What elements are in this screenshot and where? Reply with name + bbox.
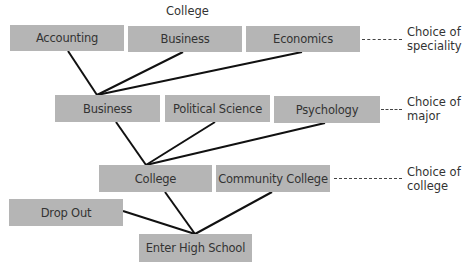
node-accounting: Accounting [10,25,124,51]
college-label-line1: Choice of [407,165,461,179]
edge-college-political-science [146,122,215,165]
speciality-label-line1: Choice of [407,25,462,39]
edge-business-accounting [68,51,97,95]
edge-college-psychology [146,123,325,165]
edge-college-business [116,122,146,165]
speciality-level-label: Choice of speciality [407,25,462,53]
node-business-speciality: Business [128,26,242,52]
edge-business-economics [97,52,302,95]
edge-highschool-drop-out [123,211,195,234]
diagram-title: College [166,4,209,18]
node-political-science: Political Science [165,95,270,122]
node-enter-high-school: Enter High School [139,234,252,262]
edge-highschool-community-college [195,192,272,234]
college-level-label: Choice of college [407,165,461,193]
node-community-college: Community College [216,165,330,192]
edge-business-business [97,52,183,95]
speciality-leader-line [362,39,402,40]
major-label-line1: Choice of [407,95,461,109]
major-leader-line [381,109,402,110]
college-label-line2: college [407,179,461,193]
major-label-line2: major [407,109,461,123]
node-college: College [99,165,212,192]
major-level-label: Choice of major [407,95,461,123]
node-psychology: Psychology [274,96,380,123]
college-leader-line [334,178,402,179]
node-business-major: Business [55,95,160,122]
speciality-label-line2: speciality [407,39,462,53]
edge-highschool-college [165,192,195,234]
node-economics: Economics [246,26,360,52]
node-drop-out: Drop Out [9,199,123,226]
